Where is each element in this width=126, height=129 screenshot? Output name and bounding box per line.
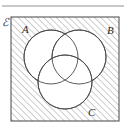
- venn-diagram-canvas: ℰ A B C: [0, 0, 126, 129]
- set-label-a: A: [21, 23, 29, 35]
- universe-set-label: ℰ: [2, 16, 10, 28]
- set-label-b: B: [107, 24, 114, 36]
- venn-diagram-figure: ℰ A B C: [0, 0, 126, 129]
- set-label-c: C: [88, 106, 96, 118]
